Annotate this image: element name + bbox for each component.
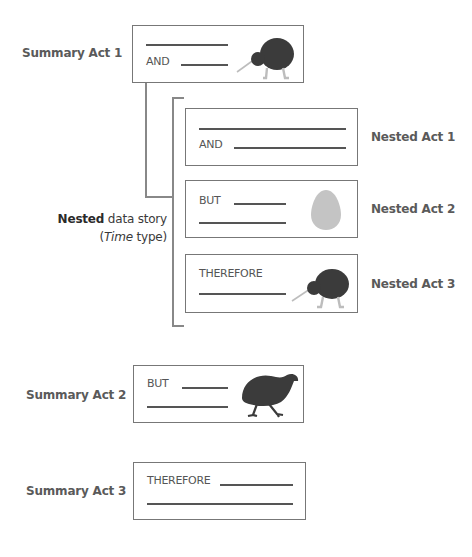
connector-word: BUT xyxy=(147,377,168,390)
nested-story-label: Nested data story (Time type) xyxy=(30,210,167,246)
nested-story-type-rest: type) xyxy=(133,230,167,244)
nested-bracket-vertical xyxy=(172,97,174,326)
text-placeholder-line xyxy=(199,222,286,224)
text-placeholder-line xyxy=(147,406,228,408)
nested-act-1-label: Nested Act 1 xyxy=(371,130,455,144)
connector-word: THEREFORE xyxy=(199,267,262,280)
connector-word: THEREFORE xyxy=(147,474,210,487)
connector-word: AND xyxy=(199,138,222,151)
kiwi-icon xyxy=(233,32,299,80)
text-placeholder-line xyxy=(199,128,346,130)
nested-story-rest: data story xyxy=(104,212,167,226)
connector-word: AND xyxy=(146,55,169,68)
text-placeholder-line xyxy=(220,484,293,486)
summary-act-1-card: AND xyxy=(132,25,304,83)
text-placeholder-line xyxy=(146,44,228,46)
kiwi-icon xyxy=(290,263,354,309)
nested-story-type: Time xyxy=(104,230,133,244)
connector-vertical xyxy=(145,83,147,197)
connector-horizontal xyxy=(145,196,173,198)
text-placeholder-line xyxy=(199,293,286,295)
nested-act-2-card: BUT xyxy=(185,180,358,238)
weka-bird-icon xyxy=(239,370,301,420)
nested-act-2-label: Nested Act 2 xyxy=(371,202,455,216)
nested-act-3-card: THEREFORE xyxy=(185,254,358,313)
nested-story-bold: Nested xyxy=(58,212,105,226)
summary-act-3-label: Summary Act 3 xyxy=(26,484,126,498)
summary-act-2-card: BUT xyxy=(133,365,304,423)
egg-icon xyxy=(310,189,342,231)
nested-bracket-bottom xyxy=(172,325,184,327)
summary-act-2-label: Summary Act 2 xyxy=(26,388,126,402)
nested-bracket-top xyxy=(172,97,184,99)
connector-word: BUT xyxy=(199,194,220,207)
nested-act-1-card: AND xyxy=(185,108,358,166)
summary-act-1-label: Summary Act 1 xyxy=(22,46,122,60)
text-placeholder-line xyxy=(234,203,286,205)
summary-act-3-card: THEREFORE xyxy=(133,462,306,520)
text-placeholder-line xyxy=(182,387,228,389)
text-placeholder-line xyxy=(147,503,293,505)
nested-act-3-label: Nested Act 3 xyxy=(371,277,455,291)
text-placeholder-line xyxy=(234,147,346,149)
text-placeholder-line xyxy=(181,64,228,66)
